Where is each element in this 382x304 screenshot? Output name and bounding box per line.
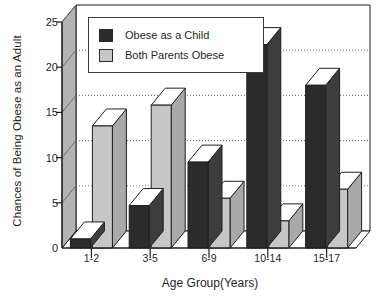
legend-label-both-parents-obese: Both Parents Obese — [125, 49, 224, 61]
x-tick-label-6-9: 6-9 — [201, 252, 216, 264]
x-tick-label-3-5: 3-5 — [143, 252, 158, 264]
legend-item-both-parents-obese: Both Parents Obese — [99, 49, 253, 62]
x-tick-label-1-2: 1-2 — [84, 252, 99, 264]
legend-item-obese-as-a-child: Obese as a Child — [99, 29, 253, 42]
legend-swatch-dark — [99, 29, 113, 42]
legend-label-obese-as-a-child: Obese as a Child — [125, 29, 209, 41]
x-tick-label-10-14: 10-14 — [254, 252, 281, 264]
x-tick-label-15-17: 15-17 — [313, 252, 340, 264]
x-axis-title: Age Group(Years) — [0, 276, 382, 290]
legend-swatch-light — [99, 49, 113, 62]
bar-chart: Chances of Being Obese as an Adult 05101… — [0, 0, 382, 304]
chart-legend: Obese as a Child Both Parents Obese — [88, 17, 264, 73]
